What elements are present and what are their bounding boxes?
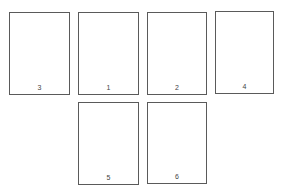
page-box-6: 6: [147, 102, 207, 184]
page-number-label: 2: [148, 84, 206, 92]
page-box-4: 4: [215, 11, 274, 94]
page-box-2: 2: [147, 12, 207, 95]
page-number-label: 5: [79, 174, 138, 182]
page-box-5: 5: [78, 102, 139, 185]
page-number-label: 4: [216, 83, 273, 91]
page-number-label: 6: [148, 173, 206, 181]
page-number-label: 3: [10, 84, 69, 92]
page-box-3: 3: [9, 12, 70, 95]
page-box-1: 1: [78, 12, 139, 95]
page-number-label: 1: [79, 84, 138, 92]
